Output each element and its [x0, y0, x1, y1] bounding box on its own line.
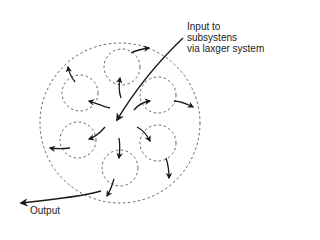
arrow-to-lower-left	[89, 127, 105, 139]
arrow-upper-right-out	[174, 101, 193, 107]
flow-arrows	[50, 48, 193, 196]
arrow-to-top	[119, 78, 121, 98]
input-label-line-1: Input to	[187, 21, 277, 32]
arrow-to-lower-right	[137, 127, 150, 141]
arrow-to-upper-right	[134, 101, 150, 110]
arrow-to-upper-left	[89, 101, 110, 108]
input-label: Input to subsystens via laxger system	[187, 21, 277, 54]
input-label-line-3: via laxger system	[187, 43, 277, 54]
subsystem-bottom	[102, 150, 138, 186]
subsystem-upper-right	[140, 77, 176, 113]
subsystem-upper-left	[62, 75, 98, 111]
input-label-line-2: subsystens	[187, 32, 277, 43]
subsystem-top	[104, 49, 140, 85]
arrow-top-out	[131, 48, 149, 53]
arrow-upper-left-out	[68, 67, 75, 82]
subsystem-lower-left	[60, 122, 96, 158]
outer-system-boundary	[40, 43, 200, 203]
arrow-to-bottom	[119, 138, 120, 158]
arrow-lower-left-out	[50, 148, 70, 149]
output-label: Output	[30, 205, 60, 216]
arrow-lower-right-out	[166, 158, 169, 178]
subsystem-lower-right	[140, 125, 176, 161]
